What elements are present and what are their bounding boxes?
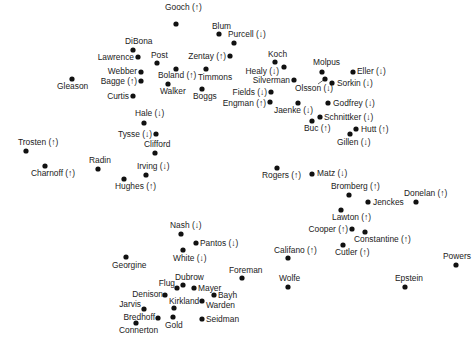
data-point-lawrence bbox=[135, 54, 140, 59]
data-point-olsson bbox=[322, 76, 327, 81]
data-label-foreman: Foreman bbox=[229, 265, 263, 275]
data-point-foreman bbox=[239, 275, 244, 280]
data-label-white: White (↓) bbox=[173, 253, 207, 263]
point-schnittker: Schnittker (↓) bbox=[317, 112, 373, 122]
data-point-koch bbox=[272, 59, 277, 64]
data-point-fields bbox=[268, 89, 273, 94]
point-dibona: DiBona bbox=[125, 36, 153, 53]
data-label-bromberg: Bromberg (↑) bbox=[331, 181, 380, 191]
data-label-cooper: Cooper (↑) bbox=[308, 224, 348, 234]
data-label-purcell: Purcell (↓) bbox=[228, 29, 266, 39]
point-foreman: Foreman bbox=[229, 265, 263, 281]
data-label-georgine: Georgine bbox=[112, 260, 147, 270]
data-label-warden: Warden bbox=[206, 300, 235, 310]
point-bagge: Bagge (↑) bbox=[101, 76, 144, 86]
data-point-white bbox=[180, 247, 185, 252]
data-point-matz bbox=[309, 171, 314, 176]
data-label-donelan: Donelan (↑) bbox=[404, 188, 448, 198]
data-point-godfrey bbox=[325, 100, 330, 105]
data-label-jenckes: Jenckes bbox=[373, 197, 404, 207]
data-label-gillen: Gillen (↓) bbox=[337, 137, 371, 147]
point-matz: Matz (↓) bbox=[309, 168, 347, 178]
point-silverman: Silverman bbox=[253, 75, 297, 85]
data-label-lawton: Lawton (↑) bbox=[332, 212, 371, 222]
data-point-timmons bbox=[203, 66, 208, 71]
point-kirkland: Kirkland bbox=[169, 296, 200, 311]
data-point-hutt bbox=[353, 126, 358, 131]
data-point-clifford bbox=[152, 150, 157, 155]
point-epstein: Epstein bbox=[395, 273, 423, 290]
data-label-lawrence: Lawrence bbox=[98, 52, 135, 62]
point-molpus: Molpus bbox=[313, 57, 340, 75]
point-hughes: Hughes (↑) bbox=[115, 176, 156, 191]
data-label-post: Post bbox=[151, 50, 168, 60]
data-label-bredhoff: Bredhoff bbox=[123, 312, 155, 322]
data-point-gold bbox=[170, 314, 175, 319]
point-warden: Warden bbox=[199, 298, 235, 310]
data-point-gooch bbox=[173, 21, 178, 26]
data-label-kirkland: Kirkland bbox=[169, 296, 200, 306]
data-point-schnittker bbox=[317, 114, 322, 119]
point-webber: Webber bbox=[108, 66, 144, 76]
data-point-nash bbox=[178, 231, 183, 236]
point-gold: Gold bbox=[165, 314, 183, 330]
data-point-bayh bbox=[211, 292, 216, 297]
point-lawton: Lawton (↑) bbox=[332, 207, 371, 222]
point-clifford: Clifford bbox=[144, 139, 171, 156]
point-lawrence: Lawrence bbox=[98, 52, 141, 62]
data-point-jenckes bbox=[365, 199, 370, 204]
point-curtis: Curtis bbox=[107, 91, 135, 101]
point-engman: Engman (↑) bbox=[223, 98, 273, 108]
data-point-hale bbox=[141, 120, 146, 125]
point-rogers: Rogers (↑) bbox=[262, 165, 301, 180]
data-label-pantos: Pantos (↓) bbox=[200, 238, 238, 248]
data-point-molpus bbox=[319, 69, 324, 74]
data-label-godfrey: Godfrey (↓) bbox=[333, 98, 375, 108]
data-point-post bbox=[154, 60, 159, 65]
data-point-flug bbox=[174, 285, 179, 290]
point-boggs: Boggs bbox=[193, 86, 217, 101]
point-mayer: Mayer bbox=[191, 283, 221, 293]
data-point-cooper bbox=[349, 226, 354, 231]
data-point-wolfe bbox=[285, 284, 290, 289]
data-label-seidman: Seidman bbox=[206, 314, 239, 324]
data-point-sorkin bbox=[329, 80, 334, 85]
data-label-matz: Matz (↓) bbox=[317, 168, 347, 178]
data-label-radin: Radin bbox=[89, 155, 111, 165]
point-charnoff: Charnoff (↑) bbox=[31, 163, 75, 178]
data-label-clifford: Clifford bbox=[144, 139, 171, 149]
data-label-hale: Hale (↓) bbox=[135, 108, 165, 118]
data-point-pantos bbox=[193, 240, 198, 245]
data-label-gold: Gold bbox=[165, 320, 183, 330]
point-cutler: Cutler (↑) bbox=[335, 242, 370, 257]
data-label-sorkin: Sorkin (↓) bbox=[337, 78, 373, 88]
data-label-koch: Koch bbox=[268, 49, 287, 59]
point-hale: Hale (↓) bbox=[135, 108, 165, 126]
data-label-hughes: Hughes (↑) bbox=[115, 181, 156, 191]
data-label-wolfe: Wolfe bbox=[279, 273, 301, 283]
data-point-healy bbox=[281, 64, 286, 69]
data-label-engman: Engman (↑) bbox=[223, 98, 266, 108]
point-white: White (↓) bbox=[173, 247, 207, 263]
point-purcell: Purcell (↓) bbox=[228, 29, 266, 46]
point-radin: Radin bbox=[89, 155, 111, 172]
data-point-powers bbox=[453, 262, 458, 267]
data-label-gooch: Gooch (↑) bbox=[165, 2, 202, 12]
data-point-califano bbox=[285, 255, 290, 260]
data-label-olsson: Olsson (↓) bbox=[295, 83, 333, 93]
data-label-buc: Buc (↑) bbox=[304, 123, 331, 133]
data-label-denison: Denison bbox=[132, 289, 163, 299]
data-point-eller bbox=[350, 69, 355, 74]
data-label-schnittker: Schnittker (↓) bbox=[324, 112, 374, 122]
data-point-warden bbox=[199, 298, 204, 303]
data-label-silverman: Silverman bbox=[253, 75, 291, 85]
data-point-seidman bbox=[199, 316, 204, 321]
data-label-zentay: Zentay (↑) bbox=[188, 51, 226, 61]
point-olsson: Olsson (↓) bbox=[295, 76, 333, 93]
point-califano: Califano (↑) bbox=[274, 245, 317, 261]
data-label-rogers: Rogers (↑) bbox=[262, 170, 301, 180]
point-seidman: Seidman bbox=[199, 314, 239, 324]
data-label-jaenke: Jaenke (↓) bbox=[274, 105, 313, 115]
data-label-trosten: Trosten (↑) bbox=[18, 137, 58, 147]
data-label-constantine: Constantine (↑) bbox=[354, 234, 411, 244]
